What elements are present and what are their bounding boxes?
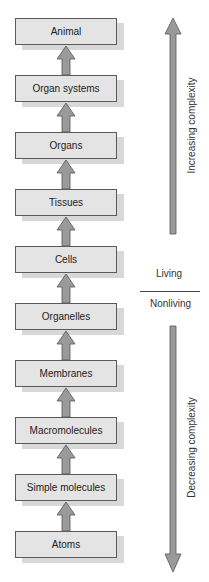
up-arrow-icon [55, 444, 77, 474]
up-arrow-icon [55, 216, 77, 246]
level-box-atoms: Atoms [15, 531, 117, 558]
up-arrow-icon [55, 102, 77, 132]
level-box-organs: Organs [15, 132, 117, 159]
increasing-arrow-icon [163, 16, 183, 236]
decreasing-complexity-label: Decreasing complexity [186, 393, 197, 503]
up-arrow-icon [55, 501, 77, 531]
level-box-organelles: Organelles [15, 303, 117, 330]
increasing-complexity-label: Increasing complexity [186, 71, 197, 181]
level-box-membranes: Membranes [15, 360, 117, 387]
decreasing-arrow-icon [163, 324, 183, 574]
level-box-organ-systems: Organ systems [15, 75, 117, 102]
level-box-animal: Animal [15, 18, 117, 45]
up-arrow-icon [55, 159, 77, 189]
level-box-cells: Cells [15, 246, 117, 273]
up-arrow-icon [55, 387, 77, 417]
level-box-simple-molecules: Simple molecules [15, 474, 117, 501]
up-arrow-icon [55, 330, 77, 360]
level-box-tissues: Tissues [15, 189, 117, 216]
nonliving-label: Nonliving [150, 298, 191, 309]
living-label: Living [156, 268, 182, 279]
level-box-macromolecules: Macromolecules [15, 417, 117, 444]
living-divider [140, 291, 200, 292]
up-arrow-icon [55, 273, 77, 303]
up-arrow-icon [55, 45, 77, 75]
